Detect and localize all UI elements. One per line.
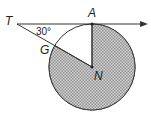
angle-label: 30° bbox=[36, 26, 51, 37]
label-T: T bbox=[5, 14, 14, 28]
arrow-head-icon bbox=[140, 21, 148, 27]
geometry-diagram: T A G N 30° bbox=[0, 0, 151, 117]
point-A bbox=[91, 23, 94, 26]
label-A: A bbox=[87, 6, 96, 20]
label-N: N bbox=[94, 69, 103, 83]
label-G: G bbox=[40, 43, 49, 57]
